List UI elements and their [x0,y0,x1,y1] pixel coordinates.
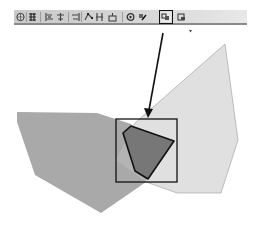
arrow-shaft [149,33,163,110]
diagram-canvas [0,0,260,231]
